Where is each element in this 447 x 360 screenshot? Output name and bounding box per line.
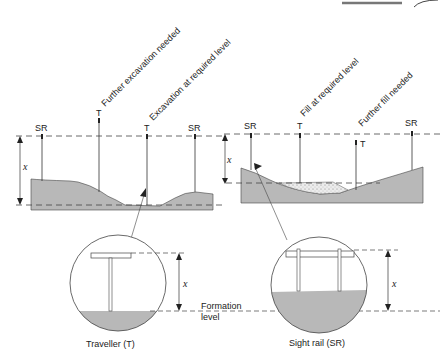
formation-level-label: Formation xyxy=(201,301,242,311)
sight-rail-detail: x Sight rail (SR) xyxy=(268,237,398,348)
traveller-label: T xyxy=(144,123,150,133)
excavation-section: x SR T T SR Further excavation needed Ex… xyxy=(16,26,233,242)
sight-rail-label: SR xyxy=(35,123,48,133)
traveller-label: T xyxy=(96,108,102,118)
dimension-label: x xyxy=(182,278,188,289)
traveller-detail: x Traveller (T) xyxy=(68,235,440,349)
traveller-label: T xyxy=(297,121,303,131)
fill-section: x SR T T SR Fill at required level Furth… xyxy=(222,56,443,240)
sight-rail-label: SR xyxy=(188,123,201,133)
formation-level-label-2: level xyxy=(201,312,220,322)
page-decoration xyxy=(342,0,438,7)
dimension-x-right: x xyxy=(222,134,232,184)
dimension-label: x xyxy=(391,278,397,289)
sight-rail-label: SR xyxy=(244,121,257,131)
dimension-x-left: x xyxy=(17,136,28,205)
annotation-fill-level: Fill at required level xyxy=(298,56,360,118)
diagram-canvas: x SR T T SR Further excavation needed Ex… xyxy=(0,0,447,360)
traveller-caption: Traveller (T) xyxy=(86,339,135,349)
traveller-label: T xyxy=(360,139,366,149)
sight-rail-caption: Sight rail (SR) xyxy=(289,338,345,348)
dimension-label: x xyxy=(226,154,232,165)
sight-rail-label: SR xyxy=(405,118,418,128)
dimension-label: x xyxy=(22,161,28,172)
